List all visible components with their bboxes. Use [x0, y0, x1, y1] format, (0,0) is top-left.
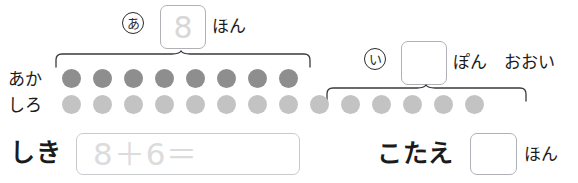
- counter-row-aka: [62, 69, 298, 88]
- group-a-unit-label: ほん: [212, 18, 246, 35]
- counter-dot: [124, 95, 143, 114]
- counter-dot: [93, 95, 112, 114]
- group-a-marker: あ: [122, 12, 144, 34]
- counter-dot: [248, 69, 267, 88]
- worksheet-canvas: あ 8 ほん い ぽん おおい あか しろ しき 8＋6＝ こたえ ほん: [0, 0, 578, 183]
- group-a-value-box[interactable]: 8: [160, 5, 206, 49]
- counter-dot: [434, 95, 453, 114]
- shiki-label: しき: [10, 140, 61, 165]
- counter-dot: [279, 95, 298, 114]
- shiki-input-box[interactable]: 8＋6＝: [76, 133, 300, 175]
- shiki-value: 8＋6＝: [93, 139, 198, 170]
- counter-dot: [124, 69, 143, 88]
- counter-dot: [155, 95, 174, 114]
- brace-group-a: [54, 50, 312, 68]
- kotae-input-box[interactable]: [470, 133, 517, 175]
- group-i-marker: い: [364, 48, 386, 70]
- group-i-unit-label: ぽん おおい: [453, 54, 555, 71]
- counter-dot: [62, 69, 81, 88]
- row-label-aka: あか: [8, 71, 42, 88]
- counter-dot: [217, 69, 236, 88]
- counter-dot: [155, 69, 174, 88]
- counter-dot: [279, 69, 298, 88]
- counter-dot: [341, 95, 360, 114]
- counter-dot: [248, 95, 267, 114]
- row-label-shiro: しろ: [8, 97, 42, 114]
- counter-dot: [310, 95, 329, 114]
- counter-dot: [372, 95, 391, 114]
- counter-dot: [403, 95, 422, 114]
- counter-dot: [62, 95, 81, 114]
- counter-dot: [217, 95, 236, 114]
- counter-dot: [186, 69, 205, 88]
- kotae-unit-label: ほん: [524, 146, 558, 163]
- counter-dot: [465, 95, 484, 114]
- kotae-label: こたえ: [377, 141, 454, 166]
- counter-row-shiro: [62, 95, 484, 114]
- counter-dot: [93, 69, 112, 88]
- group-i-value-box[interactable]: [401, 41, 447, 85]
- counter-dot: [186, 95, 205, 114]
